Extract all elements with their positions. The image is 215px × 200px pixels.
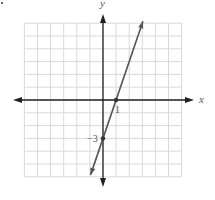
line-bottom-arrow-icon	[90, 167, 95, 174]
intercept-point	[114, 98, 118, 102]
y-axis-bottom-arrow-icon	[100, 178, 106, 187]
y-intercept-label: −3	[87, 133, 98, 144]
x-axis-label: x	[198, 93, 204, 105]
y-axis-label: y	[99, 0, 105, 9]
line-top-arrow-icon	[138, 21, 143, 28]
plot-line	[90, 21, 143, 175]
intercept-point	[101, 136, 105, 140]
y-axis-top-arrow-icon	[100, 14, 106, 23]
x-axis-right-arrow-icon	[185, 97, 194, 103]
coordinate-graph: x y 1 −3	[0, 0, 215, 200]
axes	[13, 14, 194, 187]
x-axis-left-arrow-icon	[13, 97, 22, 103]
x-intercept-label: 1	[115, 104, 120, 115]
